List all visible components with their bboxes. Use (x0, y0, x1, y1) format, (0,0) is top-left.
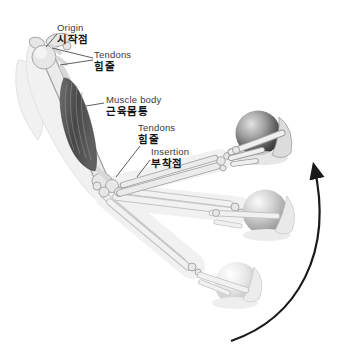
label-insertion: Insertion 부착점 (151, 146, 189, 169)
label-insertion-en: Insertion (151, 146, 189, 157)
label-tendons-upper-en: Tendons (94, 49, 131, 60)
label-origin: Origin 시작점 (57, 22, 89, 45)
label-origin-en: Origin (57, 22, 84, 33)
label-muscle-body-en: Muscle body (106, 94, 162, 105)
label-tendons-lower-en: Tendons (138, 122, 175, 133)
label-tendons-upper: Tendons 힘줄 (94, 49, 131, 72)
label-muscle-body: Muscle body 근육몸통 (106, 94, 162, 117)
label-insertion-ko: 부착점 (151, 157, 189, 169)
label-origin-ko: 시작점 (57, 33, 89, 45)
label-tendons-lower: Tendons 힘줄 (138, 122, 175, 145)
label-tendons-upper-ko: 힘줄 (94, 60, 131, 72)
anatomy-figure: Origin 시작점 Tendons 힘줄 Muscle body 근육몸통 T… (0, 0, 339, 361)
label-tendons-lower-ko: 힘줄 (138, 133, 175, 145)
label-muscle-body-ko: 근육몸통 (106, 105, 162, 117)
arm-illustration (0, 0, 339, 361)
